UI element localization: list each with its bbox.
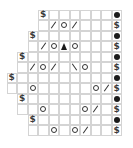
grid-cell [70,115,81,126]
grid-cell [38,104,49,115]
grid-cell [28,83,39,94]
dollar-sign-symbol: $ [114,42,120,51]
grid-cell [28,104,39,115]
grid-cell: $ [112,20,123,31]
grid-cell [112,31,123,42]
grid-cell [28,62,39,73]
grid-cell: $ [112,104,123,115]
grid-cell: $ [112,125,123,136]
grid-cell [38,52,49,63]
forward-slash-symbol [93,106,98,113]
forward-slash-symbol [104,85,109,92]
grid-cell [49,41,60,52]
grid-cell [59,94,70,105]
open-circle-symbol [51,127,57,133]
grid-cell [91,52,102,63]
grid-cell [101,104,112,115]
dollar-sign-symbol: $ [9,73,15,82]
grid-cell [49,115,60,126]
forward-slash-symbol [72,22,77,29]
grid-cell [59,73,70,84]
grid-cell [38,125,49,136]
grid-cell [101,73,112,84]
grid-cell [59,83,70,94]
grid-cell [38,83,49,94]
grid-cell [80,52,91,63]
grid-cell [7,83,18,94]
grid-cell [59,52,70,63]
grid-cell [49,62,60,73]
grid-cell [38,41,49,52]
dollar-sign-symbol: $ [114,63,120,72]
grid-cell [91,73,102,84]
grid-cell [70,73,81,84]
grid-cell [101,41,112,52]
grid-cell: $ [28,115,39,126]
open-circle-symbol [30,85,36,91]
grid-cell [28,52,39,63]
grid-cell [17,62,28,73]
grid-cell [101,20,112,31]
grid-cell [59,41,70,52]
forward-slash-symbol [83,127,88,134]
dollar-sign-symbol: $ [114,105,120,114]
open-circle-symbol [72,43,78,49]
grid-cell [59,10,70,21]
grid-cell [49,125,60,136]
dollar-sign-symbol: $ [19,94,25,103]
open-circle-symbol [51,43,57,49]
grid-cell [101,52,112,63]
grid-cell [38,94,49,105]
back-slash-symbol [72,64,77,71]
grid-cell [38,20,49,31]
grid-cell: $ [112,83,123,94]
grid-cell [28,41,39,52]
grid-cell [70,31,81,42]
grid-cell [101,62,112,73]
open-circle-symbol [72,127,78,133]
grid-cell [70,104,81,115]
grid-cell [101,10,112,21]
grid-cell [38,73,49,84]
grid-cell [91,104,102,115]
grid-cell [91,83,102,94]
dollar-sign-symbol: $ [30,115,36,124]
open-circle-symbol [61,22,67,28]
grid-cell [80,41,91,52]
grid-cell [80,20,91,31]
filled-triangle-symbol [61,43,67,50]
grid-cell [49,73,60,84]
grid-cell: $ [7,73,18,84]
filled-dot-symbol [114,33,120,39]
grid-cell [112,10,123,21]
grid-cell [49,52,60,63]
grid-cell [38,115,49,126]
grid-cell [80,62,91,73]
grid-cell [17,73,28,84]
grid-cell [28,125,39,136]
grid-cell [80,31,91,42]
grid-cell [91,20,102,31]
filled-dot-symbol [114,117,120,123]
grid-cell: $ [112,62,123,73]
grid-cell [70,52,81,63]
grid-cell [49,31,60,42]
grid-cell [38,31,49,42]
forward-slash-symbol [41,43,46,50]
grid-cell [101,83,112,94]
dollar-sign-symbol: $ [19,52,25,61]
forward-slash-symbol [30,64,35,71]
filled-dot-symbol [114,75,120,81]
grid-cell [70,94,81,105]
grid-cell [28,73,39,84]
filled-dot-symbol [114,96,120,102]
filled-dot-symbol [114,12,120,18]
grid-cell [70,62,81,73]
grid-cell [59,115,70,126]
grid-cell [59,62,70,73]
open-circle-symbol [93,85,99,91]
grid-cell [70,83,81,94]
grid-cell [70,10,81,21]
grid-cell [38,62,49,73]
grid-cell [49,94,60,105]
